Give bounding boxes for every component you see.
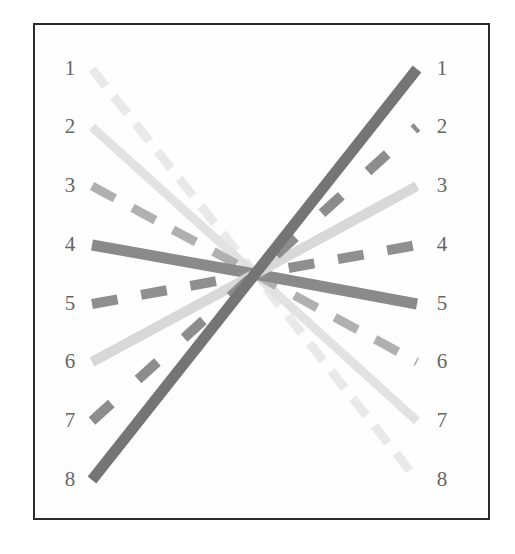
axis-right-label-1: 1 (429, 58, 455, 79)
axis-right-label-4: 4 (429, 234, 455, 255)
plot-frame: 1 2 3 4 5 6 7 8 1 2 3 4 5 6 7 8 (33, 23, 490, 520)
figure-page: 1 2 3 4 5 6 7 8 1 2 3 4 5 6 7 8 (0, 0, 515, 554)
axis-left-label-6: 6 (57, 351, 83, 372)
axis-left-label-5: 5 (57, 293, 83, 314)
axis-right-label-7: 7 (429, 410, 455, 431)
axis-left-label-3: 3 (57, 175, 83, 196)
axis-left-label-7: 7 (57, 410, 83, 431)
axis-left-label-2: 2 (57, 116, 83, 137)
axis-right-label-6: 6 (429, 351, 455, 372)
axis-left-label-1: 1 (57, 58, 83, 79)
axis-right-label-2: 2 (429, 116, 455, 137)
axis-right-label-3: 3 (429, 175, 455, 196)
axis-right-label-5: 5 (429, 293, 455, 314)
axis-left-label-4: 4 (57, 234, 83, 255)
axis-left-label-8: 8 (57, 469, 83, 490)
connector-lines (35, 25, 488, 518)
axis-right-label-8: 8 (429, 469, 455, 490)
